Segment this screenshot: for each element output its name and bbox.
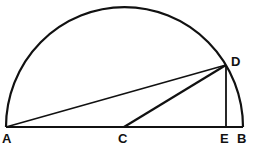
label-A: A bbox=[2, 132, 11, 145]
label-E: E bbox=[220, 132, 229, 145]
label-C: C bbox=[118, 132, 127, 145]
geometry-diagram: A C E B D bbox=[0, 0, 254, 149]
label-B: B bbox=[237, 132, 246, 145]
semicircle-arc bbox=[6, 7, 243, 127]
label-D: D bbox=[231, 55, 240, 68]
diagram-canvas bbox=[0, 0, 254, 149]
segment-CD bbox=[124, 65, 226, 127]
segment-AD bbox=[6, 65, 226, 127]
